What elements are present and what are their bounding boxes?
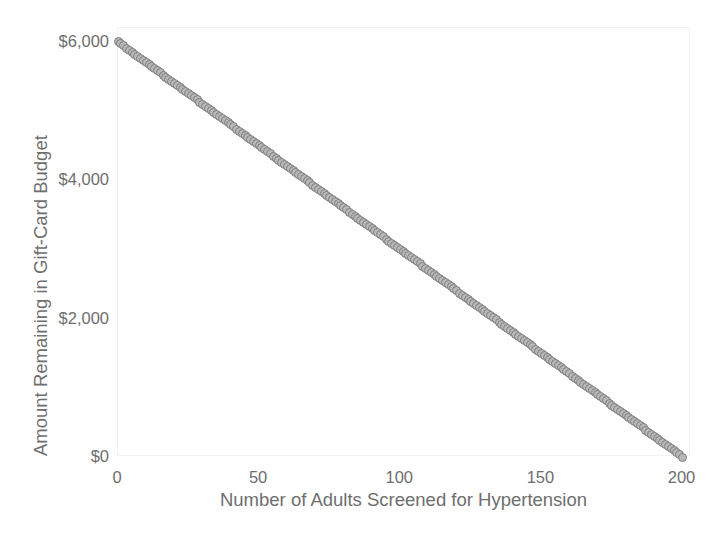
data-point [678, 453, 687, 462]
chart-page: $0$2,000$4,000$6,000 Amount Remaining in… [0, 0, 726, 536]
y-axis-title: Amount Remaining in Gift-Card Budget [30, 135, 52, 456]
plot-frame [117, 27, 690, 456]
x-tick-label: 100 [359, 468, 439, 487]
x-tick-label: 150 [500, 468, 580, 487]
y-tick-label: $4,000 [0, 170, 109, 189]
x-axis-title: Number of Adults Screened for Hypertensi… [117, 489, 690, 511]
x-tick-label: 50 [218, 468, 298, 487]
y-tick-label: $6,000 [0, 31, 109, 50]
y-tick-label: $2,000 [0, 308, 109, 327]
scatter-series [118, 28, 689, 455]
x-tick-label: 0 [77, 468, 157, 487]
y-tick-label: $0 [0, 447, 109, 466]
x-tick-label: 200 [642, 468, 722, 487]
